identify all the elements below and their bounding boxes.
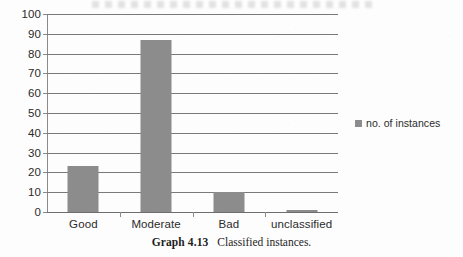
chart-legend: no. of instances: [355, 117, 440, 129]
figure-caption-number: Graph 4.13: [152, 236, 209, 248]
x-axis-labels: GoodModerateBadunclassified: [47, 218, 338, 234]
bar-moderate: [141, 40, 172, 212]
bar-slot-moderate: [120, 14, 193, 212]
y-axis-label-20: 20: [28, 166, 41, 178]
bar-good: [68, 166, 99, 212]
bar-slot-bad: [193, 14, 266, 212]
x-axis-tick-3: [265, 212, 266, 217]
legend-color-swatch: [355, 120, 362, 127]
figure-caption: Graph 4.13Classified instances.: [0, 236, 463, 248]
y-axis-label-100: 100: [22, 8, 42, 20]
bar-slot-good: [47, 14, 120, 212]
y-axis-label-70: 70: [28, 67, 41, 79]
bar-slot-unclassified: [265, 14, 338, 212]
x-axis-label-bad: Bad: [193, 218, 266, 230]
y-axis-label-40: 40: [28, 127, 41, 139]
y-axis-label-50: 50: [28, 107, 41, 119]
bar-unclassified: [286, 210, 317, 212]
y-axis-label-30: 30: [28, 147, 41, 159]
bar-chart: 0102030405060708090100 GoodModerateBadun…: [0, 0, 463, 257]
figure-caption-text: Classified instances.: [217, 236, 311, 248]
y-axis-label-10: 10: [28, 186, 41, 198]
y-axis-label-80: 80: [28, 48, 41, 60]
legend-label: no. of instances: [366, 117, 440, 129]
bar-bad: [213, 192, 244, 212]
figure-page: 0102030405060708090100 GoodModerateBadun…: [0, 0, 463, 257]
bar-series-no-of-instances: [47, 14, 338, 212]
x-axis-label-unclassified: unclassified: [265, 218, 338, 230]
y-tick-0: [43, 212, 47, 213]
x-axis-tick-1: [120, 212, 121, 217]
y-axis-label-0: 0: [35, 206, 42, 218]
x-axis-label-moderate: Moderate: [120, 218, 193, 230]
plot-area: 0102030405060708090100: [47, 14, 338, 212]
x-axis-tick-2: [193, 212, 194, 217]
x-axis-label-good: Good: [47, 218, 120, 230]
y-axis-label-60: 60: [28, 87, 41, 99]
y-axis-label-90: 90: [28, 28, 41, 40]
